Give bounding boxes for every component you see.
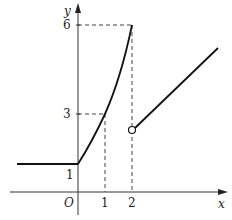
- x-axis-arrow-icon: [218, 189, 228, 195]
- y-tick-label-6: 6: [63, 18, 71, 32]
- y-axis-label: y: [63, 4, 71, 18]
- y-tick-label-1: 1: [66, 168, 74, 182]
- linear-segment: [135, 48, 218, 128]
- x-tick-label-2: 2: [128, 196, 136, 210]
- x-axis-label: x: [218, 197, 225, 211]
- origin-label: O: [64, 196, 74, 210]
- y-tick-label-3: 3: [63, 107, 71, 121]
- open-endpoint-marker: [129, 127, 136, 134]
- guide-lines: [78, 25, 132, 192]
- y-axis-arrow-icon: [75, 3, 81, 13]
- function-graph: y x O 6 3 1 1 2: [0, 0, 232, 220]
- x-tick-label-1: 1: [101, 196, 109, 210]
